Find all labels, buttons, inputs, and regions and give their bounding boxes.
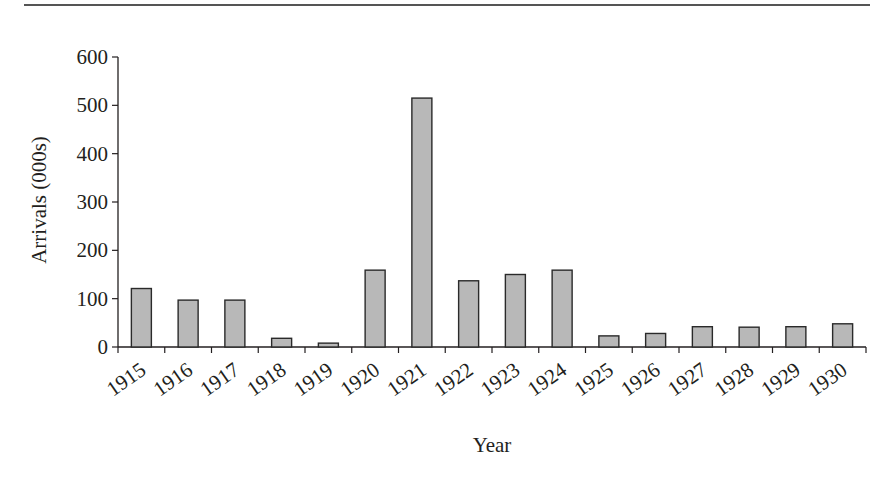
x-tick-label: 1927 (663, 357, 711, 401)
bar-1924 (552, 270, 572, 347)
bar-1923 (505, 275, 525, 348)
y-tick-label: 200 (77, 238, 109, 262)
bar-1916 (178, 300, 198, 347)
x-tick-label: 1916 (149, 357, 197, 401)
bar-1930 (833, 324, 853, 347)
bar-1928 (739, 327, 759, 347)
bar-1927 (692, 327, 712, 347)
bar-1926 (646, 333, 666, 347)
bar-chart: 0100200300400500600191519161917191819191… (0, 0, 889, 488)
x-tick-label: 1918 (242, 357, 290, 401)
bar-1915 (131, 289, 151, 347)
bar-1921 (412, 98, 432, 347)
bar-1929 (786, 327, 806, 347)
x-tick-label: 1928 (710, 357, 758, 401)
x-tick-label: 1920 (336, 357, 384, 401)
y-tick-label: 400 (77, 142, 109, 166)
x-tick-label: 1919 (289, 357, 337, 401)
x-tick-label: 1921 (383, 357, 431, 401)
x-tick-label: 1929 (757, 357, 805, 401)
y-axis-title: Arrivals (000s) (27, 136, 51, 264)
bar-1919 (318, 343, 338, 347)
x-tick-label: 1930 (803, 357, 851, 401)
x-tick-label: 1923 (476, 357, 524, 401)
x-tick-label: 1924 (523, 357, 572, 401)
x-tick-label: 1925 (570, 357, 618, 401)
x-axis-title: Year (473, 433, 512, 457)
bar-1920 (365, 270, 385, 347)
y-tick-label: 500 (77, 93, 109, 117)
x-tick-label: 1922 (429, 357, 477, 401)
bar-1917 (225, 300, 245, 347)
y-tick-label: 300 (77, 190, 109, 214)
bar-1918 (272, 338, 292, 347)
y-tick-label: 600 (77, 45, 109, 69)
x-tick-label: 1917 (196, 357, 244, 401)
x-tick-label: 1915 (102, 357, 150, 401)
x-tick-label: 1926 (616, 357, 664, 401)
bar-1925 (599, 336, 619, 347)
y-tick-label: 100 (77, 287, 109, 311)
y-tick-label: 0 (98, 335, 109, 359)
bar-1922 (459, 281, 479, 347)
